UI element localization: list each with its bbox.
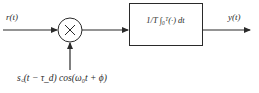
block-diagram: r(t) y(t) 1/T ∫₀ᵀ(·) dt s꜀(t − τ_d) cos(…: [0, 0, 259, 93]
integrator-label: 1/T ∫₀ᵀ(·) dt: [129, 16, 202, 25]
reference-signal-label: s꜀(t − τ_d) cos(ω₀t + ϕ): [17, 74, 107, 84]
output-signal-label: y(t): [228, 13, 241, 22]
multiply-icon: [65, 25, 75, 35]
input-signal-label: r(t): [6, 13, 18, 22]
